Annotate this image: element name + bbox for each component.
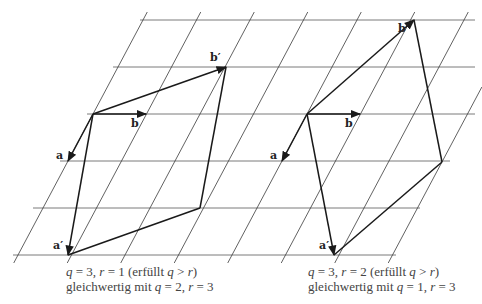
parallelogram-edge xyxy=(200,67,226,208)
grid-slanted-line xyxy=(174,12,308,263)
caption-text: = 3, xyxy=(73,264,100,279)
caption-text: = 2, xyxy=(161,279,188,294)
vector-a-prime xyxy=(307,114,334,255)
caption-left: q = 3, r = 1 (erfüllt q > r) gleichwerti… xyxy=(66,264,214,294)
caption-left-line2: gleichwertig mit q = 2, r = 3 xyxy=(66,279,214,294)
caption-text: > xyxy=(416,264,430,279)
label-a-prime: a′ xyxy=(319,239,329,252)
grid-slanted-line xyxy=(335,12,469,263)
label-b: b xyxy=(131,117,139,130)
caption-text: = 2 (erfüllt xyxy=(346,264,409,279)
caption-text: ) xyxy=(193,264,197,279)
lattice-figure: bab′a′ bab′a′ xyxy=(0,0,482,304)
label-a-prime: a′ xyxy=(53,239,63,252)
label-b-prime: b′ xyxy=(210,51,221,64)
caption-text: > xyxy=(174,264,188,279)
caption-text: = 1 (erfüllt xyxy=(104,264,167,279)
vector-b-prime xyxy=(93,67,226,114)
panel-left: bab′a′ xyxy=(53,51,226,255)
caption-text: gleichwertig mit xyxy=(308,279,397,294)
caption-left-line1: q = 3, r = 1 (erfüllt q > r) xyxy=(66,264,214,279)
label-a: a xyxy=(56,149,63,162)
parallelogram-edge xyxy=(414,20,442,162)
grid-slanted-line xyxy=(388,87,482,263)
caption-text: = 3, xyxy=(315,264,342,279)
label-b: b xyxy=(345,117,353,130)
grid-slanted-line xyxy=(281,12,415,263)
grid-slanted-lines xyxy=(14,12,482,263)
caption-text: = 3 xyxy=(435,279,455,294)
caption-text: = 1, xyxy=(403,279,430,294)
caption-right-line2: gleichwertig mit q = 1, r = 3 xyxy=(308,279,456,294)
grid-slanted-line xyxy=(67,12,201,263)
panel-right: bab′a′ xyxy=(270,20,442,255)
grid-slanted-line xyxy=(121,12,255,263)
label-a: a xyxy=(270,149,277,162)
label-b-prime: b′ xyxy=(398,22,409,35)
grid-horizontal-lines xyxy=(13,20,475,255)
vector-a xyxy=(282,114,307,161)
parallelogram-edge xyxy=(68,208,200,255)
caption-text: ) xyxy=(435,264,439,279)
caption-text: gleichwertig mit xyxy=(66,279,155,294)
vector-a-prime xyxy=(68,114,93,255)
caption-right: q = 3, r = 2 (erfüllt q > r) gleichwerti… xyxy=(308,264,456,294)
caption-text: = 3 xyxy=(193,279,213,294)
caption-right-line1: q = 3, r = 2 (erfüllt q > r) xyxy=(308,264,456,279)
